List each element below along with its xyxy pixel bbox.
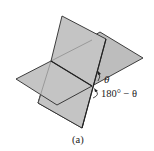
supplementary-arc [93,91,97,98]
theta-label: θ [104,73,110,85]
supplementary-angle-label: 180° − θ [101,88,137,99]
figure-caption: (a) [72,134,84,146]
intersecting-planes-diagram: θ 180° − θ (a) [0,0,154,151]
supplementary-arrowhead [94,88,98,92]
